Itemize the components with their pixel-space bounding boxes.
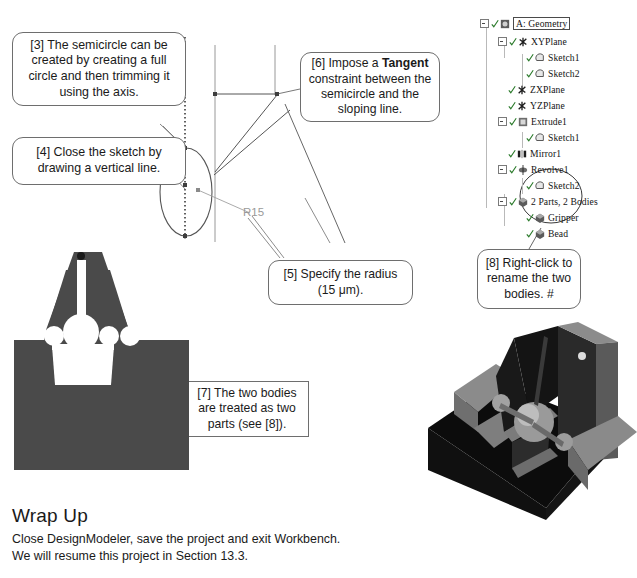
callout-8: [8] Right-click to rename the two bodies… <box>477 249 581 309</box>
tree-row-sketch2-b[interactable]: Sketch2 <box>526 178 580 193</box>
expander-icon[interactable] <box>498 197 507 206</box>
mirror-icon <box>517 149 527 159</box>
tree-label-sketch2: Sketch2 <box>548 68 580 79</box>
tree-row-yzplane[interactable]: YZPlane <box>508 98 565 113</box>
check-icon <box>509 37 517 46</box>
wrap-up-line-2: We will resume this project in Section 1… <box>12 548 412 565</box>
wrap-up-line-1: Close DesignModeler, save the project an… <box>12 531 412 548</box>
tree-row-parts-bodies[interactable]: 2 Parts, 2 Bodies <box>498 194 598 209</box>
plane-icon <box>517 101 527 111</box>
plane-icon <box>517 85 527 95</box>
tree-label-revolve1: Revolve1 <box>531 164 569 175</box>
callout-3-text: [3] The semicircle can be created by cre… <box>13 35 185 104</box>
tree-label-extrude1: Extrude1 <box>531 116 567 127</box>
tree-label-sketch1-b: Sketch1 <box>548 132 580 143</box>
callout-7-text: [7] The two bodies are treated as two pa… <box>186 383 308 435</box>
check-icon <box>508 85 516 94</box>
tree-label-mirror1: Mirror1 <box>530 148 561 159</box>
tree-label-yzplane: YZPlane <box>530 100 565 111</box>
check-icon <box>526 53 534 62</box>
tree-label-geometry: A: Geometry <box>513 17 570 30</box>
tree-row-bead[interactable]: Bead <box>526 226 568 241</box>
callout-4-text: [4] Close the sketch by drawing a vertic… <box>13 142 185 179</box>
check-icon <box>526 69 534 78</box>
check-icon <box>508 101 516 110</box>
check-icon <box>509 117 517 126</box>
tree-label-parts-bodies: 2 Parts, 2 Bodies <box>531 196 598 207</box>
check-icon <box>491 19 499 28</box>
radius-dimension-label: R15 <box>243 206 264 218</box>
check-icon <box>508 149 516 158</box>
expander-icon[interactable] <box>498 165 507 174</box>
tree-label-sketch1: Sketch1 <box>548 52 580 63</box>
callout-5: [5] Specify the radius (15 μm). <box>268 260 413 305</box>
tree-label-zxplane: ZXPlane <box>530 84 565 95</box>
callout-5-text: [5] Specify the radius (15 μm). <box>269 264 412 301</box>
check-icon <box>526 229 534 238</box>
gripper-2d-profile <box>14 252 189 470</box>
callout-4: [4] Close the sketch by drawing a vertic… <box>12 137 186 185</box>
tree-row-zxplane[interactable]: ZXPlane <box>508 82 565 97</box>
callout-6-post: constraint between the semicircle and th… <box>309 72 432 117</box>
callout-6-text: [6] Impose a Tangent constraint between … <box>301 53 439 121</box>
geometry-icon <box>500 19 510 29</box>
tree-label-sketch2-b: Sketch2 <box>548 180 580 191</box>
sketch-icon <box>535 53 545 63</box>
plane-icon <box>518 37 528 47</box>
expander-icon[interactable] <box>480 19 489 28</box>
tree-label-gripper: Gripper <box>548 212 579 223</box>
wrap-up-heading: Wrap Up <box>12 505 412 527</box>
sketch-icon <box>535 133 545 143</box>
tree-row-sketch1-b[interactable]: Sketch1 <box>526 130 580 145</box>
check-icon <box>526 213 534 222</box>
callout-6: [6] Impose a Tangent constraint between … <box>300 52 440 122</box>
tree-row-mirror1[interactable]: Mirror1 <box>508 146 561 161</box>
wrap-up-section: Wrap Up Close DesignModeler, save the pr… <box>12 505 412 564</box>
page-root: [3] The semicircle can be created by cre… <box>0 0 637 578</box>
gripper-3d-render <box>418 320 637 520</box>
sketch-icon <box>535 181 545 191</box>
callout-6-pre: [6] Impose a <box>312 56 382 70</box>
expander-icon[interactable] <box>498 117 507 126</box>
check-icon <box>526 133 534 142</box>
check-icon <box>526 181 534 190</box>
tree-row-xyplane[interactable]: XYPlane <box>498 34 567 49</box>
model-tree[interactable]: A: Geometry XYPlane Sketch1 Sketch2 ZXPl… <box>474 8 637 224</box>
callout-6-bold: Tangent <box>382 56 429 70</box>
tree-row-revolve1[interactable]: Revolve1 <box>498 162 569 177</box>
bodies-icon <box>518 197 528 207</box>
sketch-icon <box>535 69 545 79</box>
body-icon <box>535 229 545 239</box>
tree-row-extrude1[interactable]: Extrude1 <box>498 114 567 129</box>
callout-3: [3] The semicircle can be created by cre… <box>12 32 186 106</box>
tree-row-geometry[interactable]: A: Geometry <box>480 16 570 31</box>
tree-row-sketch2-a[interactable]: Sketch2 <box>526 66 580 81</box>
tree-row-gripper[interactable]: Gripper <box>526 210 579 225</box>
extrude-icon <box>518 117 528 127</box>
tree-row-sketch1-a[interactable]: Sketch1 <box>526 50 580 65</box>
check-icon <box>509 197 517 206</box>
revolve-icon <box>518 165 528 175</box>
callout-7: [7] The two bodies are treated as two pa… <box>185 381 309 437</box>
body-icon <box>535 213 545 223</box>
check-icon <box>509 165 517 174</box>
tree-label-bead: Bead <box>548 228 568 239</box>
tree-label-xyplane: XYPlane <box>531 36 567 47</box>
callout-8-text: [8] Right-click to rename the two bodies… <box>478 253 580 305</box>
expander-icon[interactable] <box>498 37 507 46</box>
